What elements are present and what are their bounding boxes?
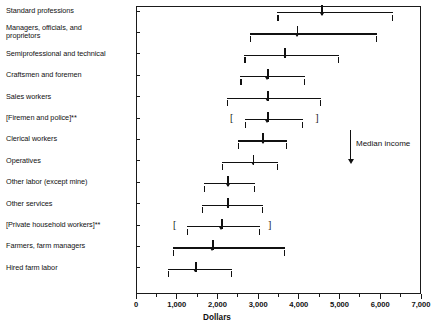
annotation-label: Median income <box>356 139 410 148</box>
range-high-cap <box>304 79 305 85</box>
x-axis-minor-tick <box>156 294 157 297</box>
median-marker <box>267 112 268 122</box>
range-low-cap <box>168 271 169 277</box>
range-high-cap <box>376 36 377 42</box>
x-axis-tick-label: 3,000 <box>249 300 268 309</box>
x-axis-minor-tick <box>237 294 238 297</box>
median-marker <box>221 219 222 229</box>
range-high-cap <box>231 271 232 277</box>
bracket-open: [ <box>230 114 233 122</box>
range-bar <box>227 98 321 99</box>
median-marker <box>284 48 285 58</box>
range-bar <box>244 55 339 56</box>
median-marker <box>297 26 298 36</box>
range-low-cap <box>204 186 205 192</box>
x-axis-tick-label: 0 <box>134 300 138 309</box>
range-bar <box>202 205 263 206</box>
range-bar <box>245 119 303 120</box>
median-marker <box>267 69 268 79</box>
annotation-arrow-line <box>350 130 351 160</box>
range-row <box>0 69 434 80</box>
range-high-cap <box>277 164 278 170</box>
range-row: [] <box>0 112 434 123</box>
range-low-cap <box>187 229 188 235</box>
median-marker <box>212 240 213 250</box>
x-axis-tick-label: 2,000 <box>208 300 227 309</box>
x-axis-title: Dollars <box>0 313 434 322</box>
median-marker <box>267 91 268 101</box>
x-axis-major-tick <box>298 294 299 299</box>
x-axis-minor-tick <box>197 294 198 297</box>
x-axis-tick-label: 7,000 <box>411 300 430 309</box>
x-axis-tick-label: 5,000 <box>330 300 349 309</box>
range-high-cap <box>392 15 393 21</box>
range-row <box>0 262 434 273</box>
range-low-cap <box>250 36 251 42</box>
x-axis-minor-tick <box>359 294 360 297</box>
x-axis-major-tick <box>339 294 340 299</box>
median-marker <box>227 198 228 208</box>
range-bar <box>187 226 260 227</box>
bracket-close: ] <box>315 114 318 122</box>
x-axis-major-tick <box>176 294 177 299</box>
range-high-cap <box>338 57 339 63</box>
range-low-cap <box>222 164 223 170</box>
range-bar <box>240 76 305 77</box>
bracket-open: [ <box>173 221 176 229</box>
range-row: [] <box>0 219 434 230</box>
range-row <box>0 176 434 187</box>
median-marker <box>195 262 196 272</box>
range-high-cap <box>284 250 285 256</box>
range-row <box>0 26 434 37</box>
range-high-cap <box>286 143 287 149</box>
range-low-cap <box>240 79 241 85</box>
range-low-cap <box>238 143 239 149</box>
range-low-cap <box>244 57 245 63</box>
bracket-close: ] <box>268 221 271 229</box>
range-row <box>0 155 434 166</box>
median-marker <box>253 155 254 165</box>
down-arrow-icon <box>348 159 354 164</box>
x-axis-major-tick <box>380 294 381 299</box>
range-row <box>0 5 434 16</box>
median-marker <box>262 133 263 143</box>
x-axis-minor-tick <box>319 294 320 297</box>
range-low-cap <box>277 15 278 21</box>
range-bar <box>173 247 285 248</box>
range-low-cap <box>227 100 228 106</box>
median-marker <box>227 176 228 186</box>
range-row <box>0 48 434 59</box>
range-high-cap <box>320 100 321 106</box>
range-row <box>0 240 434 251</box>
range-row <box>0 198 434 209</box>
x-axis-major-tick <box>421 294 422 299</box>
range-high-cap <box>302 122 303 128</box>
range-high-cap <box>259 229 260 235</box>
range-bar <box>277 12 393 13</box>
range-bar <box>250 33 377 34</box>
range-low-cap <box>245 122 246 128</box>
x-axis-tick-label: 6,000 <box>371 300 390 309</box>
x-axis-minor-tick <box>400 294 401 297</box>
x-axis-major-tick <box>258 294 259 299</box>
range-low-cap <box>173 250 174 256</box>
range-high-cap <box>262 207 263 213</box>
x-axis-tick-label: 4,000 <box>289 300 308 309</box>
x-axis-major-tick <box>217 294 218 299</box>
range-low-cap <box>202 207 203 213</box>
x-axis-major-tick <box>136 294 137 299</box>
x-axis-tick-label: 1,000 <box>167 300 186 309</box>
income-range-chart: Standard professionsManagers, officials,… <box>0 0 434 329</box>
median-marker <box>321 5 322 15</box>
range-row <box>0 91 434 102</box>
range-bar <box>168 269 232 270</box>
x-axis-minor-tick <box>278 294 279 297</box>
range-high-cap <box>254 186 255 192</box>
